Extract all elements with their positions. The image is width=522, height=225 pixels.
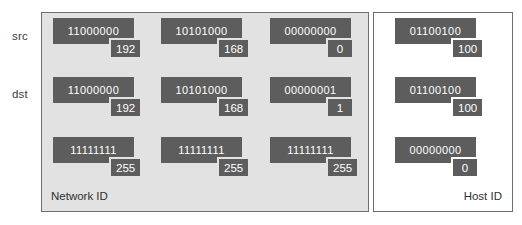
decimal-badge: 100 (451, 38, 482, 57)
row-label-src: src (0, 31, 40, 43)
byte-cell-network-mask-octet1: 11111111 255 (53, 137, 134, 180)
decimal-badge: 0 (451, 157, 477, 176)
decimal-badge: 168 (217, 38, 248, 57)
decimal-badge: 0 (326, 38, 352, 57)
decimal-badge: 192 (109, 97, 140, 116)
decimal-badge: 255 (326, 157, 357, 176)
ip-network-host-diagram: src dst 11000000 192 10101000 168 000000… (0, 0, 522, 225)
decimal-badge: 1 (326, 97, 352, 116)
host-id-panel: 01100100 100 01100100 100 00000000 0 Hos… (373, 12, 513, 212)
byte-cell-host-src-octet4: 01100100 100 (395, 18, 476, 61)
decimal-badge: 168 (217, 97, 248, 116)
network-id-caption: Network ID (51, 191, 108, 203)
byte-cell-network-src-octet2: 10101000 168 (161, 18, 242, 61)
byte-cell-host-mask-octet4: 00000000 0 (395, 137, 476, 180)
host-id-caption: Host ID (464, 191, 502, 203)
byte-cell-network-dst-octet3: 00000001 1 (270, 77, 351, 120)
byte-cell-network-src-octet3: 00000000 0 (270, 18, 351, 61)
byte-cell-host-dst-octet4: 01100100 100 (395, 77, 476, 120)
byte-cell-network-dst-octet2: 10101000 168 (161, 77, 242, 120)
byte-cell-network-mask-octet3: 11111111 255 (270, 137, 351, 180)
network-id-panel: 11000000 192 10101000 168 00000000 0 110… (41, 12, 369, 212)
decimal-badge: 192 (109, 38, 140, 57)
decimal-badge: 255 (217, 157, 248, 176)
byte-cell-network-mask-octet2: 11111111 255 (161, 137, 242, 180)
decimal-badge: 255 (109, 157, 140, 176)
byte-cell-network-src-octet1: 11000000 192 (53, 18, 134, 61)
byte-cell-network-dst-octet1: 11000000 192 (53, 77, 134, 120)
row-label-dst: dst (0, 89, 40, 101)
decimal-badge: 100 (451, 97, 482, 116)
